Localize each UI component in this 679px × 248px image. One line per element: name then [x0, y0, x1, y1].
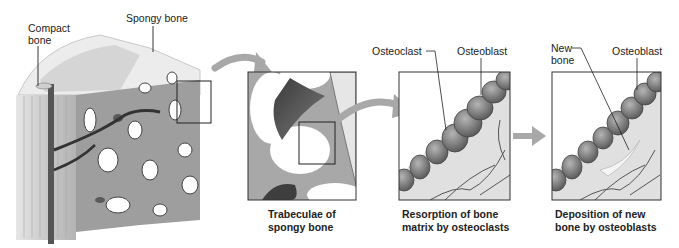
trabeculae-caption-line1: Trabeculae of: [268, 208, 336, 221]
deposition-panel-art: [546, 72, 670, 200]
osteoblast-label-resorption: Osteoblast: [457, 45, 507, 57]
deposition-caption-line1: Deposition of new: [555, 208, 657, 221]
deposition-caption: Deposition of new bone by osteoblasts: [555, 208, 657, 234]
bone-section-illustration: [16, 35, 211, 244]
resorption-caption-line2: matrix by osteoclasts: [402, 221, 509, 234]
spongy-bone-label: Spongy bone: [126, 12, 188, 24]
resorption-caption-line1: Resorption of bone: [402, 208, 509, 221]
compact-bone-label-line1: Compact: [28, 22, 70, 34]
compact-bone-label-line2: bone: [28, 34, 70, 46]
osteoclast-label: Osteoclast: [372, 45, 422, 57]
compact-bone-label: Compact bone: [28, 22, 70, 46]
new-bone-label-line1: New: [551, 42, 574, 54]
new-bone-label: New bone: [551, 42, 574, 66]
arrow-to-deposition: [513, 133, 533, 139]
trabeculae-panel-art: [248, 61, 363, 207]
deposition-caption-line2: bone by osteoblasts: [555, 221, 657, 234]
new-bone-label-line2: bone: [551, 54, 574, 66]
bone-remodeling-figure: Compact bone Spongy bone Osteoclast Oste…: [0, 0, 679, 248]
trabeculae-caption: Trabeculae of spongy bone: [268, 208, 336, 234]
trabeculae-caption-line2: spongy bone: [268, 221, 336, 234]
resorption-panel-art: [394, 70, 520, 200]
osteoblast-label-deposition: Osteoblast: [612, 45, 662, 57]
resorption-caption: Resorption of bone matrix by osteoclasts: [402, 208, 509, 234]
